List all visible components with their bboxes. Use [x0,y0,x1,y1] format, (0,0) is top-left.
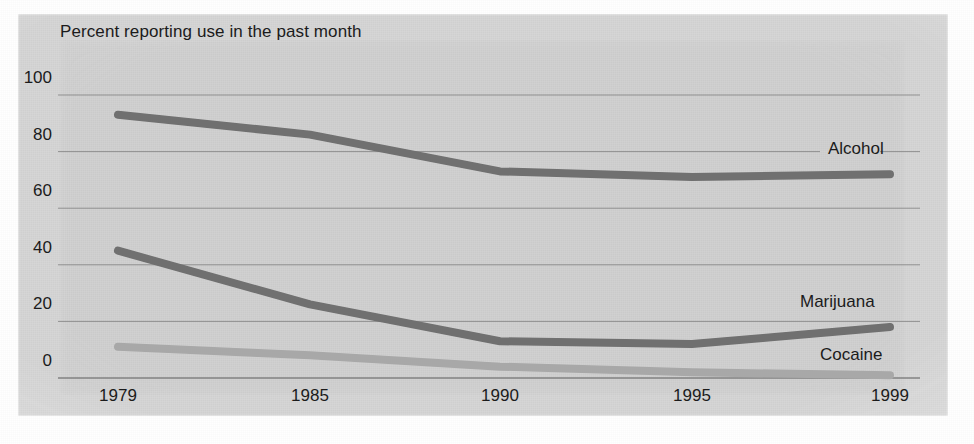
y-axis-tick-label: 20 [0,294,52,314]
series-label-marijuana: Marijuana [800,292,875,312]
series-line-alcohol [118,115,890,177]
chart-figure: Percent reporting use in the past month … [0,0,974,444]
x-axis-tick-label: 1999 [845,386,935,406]
y-axis-tick-label: 100 [0,68,52,88]
series-label-alcohol: Alcohol [828,139,884,159]
x-axis-tick-label: 1990 [455,386,545,406]
series-label-cocaine: Cocaine [820,345,882,365]
y-axis-tick-label: 40 [0,238,52,258]
x-axis-tick-label: 1985 [265,386,355,406]
series-lines-group [118,115,890,375]
x-axis-tick-label: 1979 [73,386,163,406]
x-axis-tick-label: 1995 [647,386,737,406]
y-axis-tick-label: 80 [0,125,52,145]
series-line-cocaine [118,347,890,375]
plot-area [0,0,974,444]
y-axis-tick-label: 60 [0,181,52,201]
y-axis-tick-label: 0 [0,351,52,371]
